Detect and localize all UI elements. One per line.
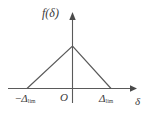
x-axis-arrow-icon: [130, 85, 137, 91]
y-axis-arrow-icon: [69, 12, 75, 20]
y-axis-label: f(δ): [42, 7, 59, 19]
negative-limit-subscript: lim: [28, 98, 36, 104]
positive-limit-subscript: lim: [105, 98, 113, 104]
pdf-triangle-curve: [27, 46, 111, 89]
origin-label: O: [60, 92, 68, 103]
positive-limit-tick-label: Δlim: [99, 93, 113, 105]
x-axis-label: δ: [135, 96, 140, 107]
figure-container: f(δ) δ O −Δlim Δlim: [0, 0, 151, 117]
negative-limit-tick-label: −Δlim: [15, 93, 36, 105]
